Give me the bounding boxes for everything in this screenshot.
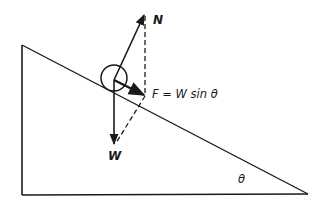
dashed-diagonal (116, 96, 145, 143)
label-theta: θ (238, 172, 245, 186)
friction-force-arrow (114, 80, 144, 95)
force-vectors (114, 15, 144, 144)
label-w: W (108, 149, 122, 163)
label-n: N (153, 13, 163, 27)
base (22, 194, 308, 195)
slope (22, 45, 308, 194)
inclined-plane-diagram: N W F = W sin θ θ (0, 0, 328, 205)
incline-triangle (22, 45, 308, 195)
normal-force-arrow (114, 15, 144, 80)
label-f: F = W sin θ (152, 87, 218, 101)
construction-lines (116, 16, 145, 143)
